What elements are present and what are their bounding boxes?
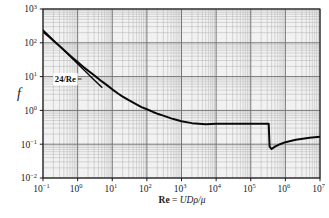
tick-mantissa: 10: [278, 184, 288, 194]
x-axis-title-expression: UDρ/μ: [180, 195, 206, 205]
tick-mantissa: 10: [24, 38, 34, 48]
tick-exponent: 2: [149, 182, 152, 189]
tick-exponent: −1: [30, 138, 37, 145]
tick-exponent: 3: [34, 3, 37, 10]
tick-mantissa: 10: [21, 173, 31, 183]
tick-mantissa: 10: [24, 72, 34, 82]
tick-mantissa: 10: [139, 184, 149, 194]
tick-mantissa: 10: [208, 184, 218, 194]
tick-exponent: 6: [287, 182, 290, 189]
drag-coefficient-figure: 24/Re 10−1100101102103104105106107 10310…: [0, 0, 329, 218]
tick-exponent: 1: [34, 70, 37, 77]
tick-exponent: 2: [34, 37, 37, 44]
x-axis-title-re: Re: [159, 195, 170, 205]
x-axis-title: Re = UDρ/μ: [159, 195, 206, 205]
tick-mantissa: 10: [33, 184, 43, 194]
stokes-law-label: 24/Re: [55, 74, 76, 84]
tick-exponent: 5: [252, 182, 255, 189]
tick-mantissa: 10: [24, 106, 34, 116]
tick-exponent: 0: [34, 104, 37, 111]
x-axis-title-equals: =: [170, 195, 180, 205]
x-axis-tick-labels: 10−1100101102103104105106107: [33, 182, 325, 194]
annotation-group: 24/Re: [53, 73, 81, 85]
chart-canvas: 24/Re 10−1100101102103104105106107 10310…: [0, 0, 329, 218]
tick-mantissa: 10: [21, 140, 31, 150]
tick-mantissa: 10: [104, 184, 114, 194]
tick-exponent: 1: [114, 182, 117, 189]
tick-mantissa: 10: [174, 184, 184, 194]
tick-mantissa: 10: [312, 184, 322, 194]
tick-exponent: −1: [43, 182, 50, 189]
tick-exponent: 3: [183, 182, 186, 189]
tick-exponent: 0: [79, 182, 82, 189]
tick-mantissa: 10: [70, 184, 80, 194]
tick-mantissa: 10: [243, 184, 253, 194]
tick-exponent: −2: [30, 172, 37, 179]
tick-mantissa: 10: [24, 4, 34, 14]
